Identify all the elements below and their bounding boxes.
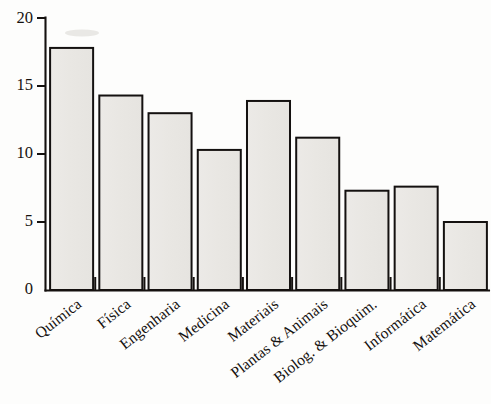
x-tick-label-4: Medicina bbox=[175, 295, 232, 345]
bar-6[interactable]: Plantas & Animais: 11.2 bbox=[296, 138, 339, 290]
y-tick-label-0: 0 bbox=[25, 279, 33, 298]
bar-4[interactable]: Medicina: 10.3 bbox=[198, 150, 241, 290]
y-tick-label-15: 15 bbox=[17, 75, 34, 94]
y-tick-label-20: 20 bbox=[17, 8, 34, 27]
bar-3[interactable]: Engenharia: 13 bbox=[149, 113, 192, 290]
bar-8[interactable]: Informática: 7.6 bbox=[395, 187, 438, 290]
bar-9[interactable]: Matemática: 5 bbox=[444, 222, 487, 290]
x-tick-label-2: Física bbox=[94, 295, 134, 332]
y-tick-labels: 05101520 bbox=[17, 8, 34, 298]
y-tick-label-5: 5 bbox=[25, 211, 33, 230]
bar-7[interactable]: Biolog. & Bioquim.: 7.3 bbox=[345, 191, 388, 290]
y-tick-label-10: 10 bbox=[17, 143, 34, 162]
bar-1[interactable]: Química: 17.8 bbox=[50, 48, 93, 290]
scan-smudge bbox=[65, 30, 99, 37]
bar-2[interactable]: Física: 14.3 bbox=[99, 96, 142, 290]
bar-5[interactable]: Materiais: 13.9 bbox=[247, 101, 290, 290]
x-tick-labels: QuímicaFísicaEngenhariaMedicinaMateriais… bbox=[31, 295, 478, 386]
bar-chart: Química: 17.8Física: 14.3Engenharia: 13M… bbox=[0, 0, 491, 404]
bars-group: Química: 17.8Física: 14.3Engenharia: 13M… bbox=[50, 48, 487, 290]
x-tick-label-1: Química bbox=[31, 295, 84, 342]
chart-canvas: Química: 17.8Física: 14.3Engenharia: 13M… bbox=[0, 0, 491, 404]
